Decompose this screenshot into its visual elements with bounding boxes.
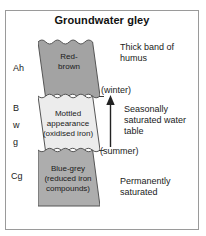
soil-profile-diagram: Groundwater gley Red- brown Mottled appe… — [0, 0, 206, 236]
layer-caption-bwg: Mottled appearance (oxidised iron) — [37, 109, 99, 139]
layer-caption-bwg-line1: Mottled — [37, 109, 99, 119]
horizon-code-ah: Ah — [13, 63, 24, 74]
layer-caption-ah-line2: brown — [38, 62, 100, 72]
summer-level-tick — [99, 150, 104, 151]
layer-caption-cg: Blue-grey (reduced iron compounds) — [37, 164, 99, 194]
horizon-code-bwg: B w g — [13, 103, 20, 148]
layer-caption-ah-line1: Red- — [38, 52, 100, 62]
annotation-permanently-saturated: Permanently saturated — [120, 176, 196, 198]
horizon-code-bwg-b: B — [13, 103, 20, 114]
layer-caption-cg-line1: Blue-grey — [37, 164, 99, 174]
horizon-code-bwg-g: g — [13, 137, 20, 148]
layer-caption-cg-line2: (reduced iron — [37, 174, 99, 184]
layer-caption-bwg-line3: (oxidised iron) — [37, 129, 99, 139]
diagram-title: Groundwater gley — [6, 14, 198, 26]
horizon-code-cg: Cg — [11, 171, 23, 182]
winter-level-tick — [99, 96, 104, 97]
layer-caption-cg-line3: compounds) — [37, 184, 99, 194]
annotation-seasonal-water-table: Seasonally saturated water table — [124, 104, 196, 137]
layer-caption-bwg-line2: appearance — [37, 119, 99, 129]
horizon-code-bwg-w: w — [13, 120, 20, 131]
annotation-winter-level: (winter) — [101, 85, 131, 95]
layer-caption-ah: Red- brown — [38, 52, 100, 72]
annotation-humus: Thick band of humus — [120, 42, 196, 64]
water-table-range-arrow-icon — [104, 95, 117, 149]
